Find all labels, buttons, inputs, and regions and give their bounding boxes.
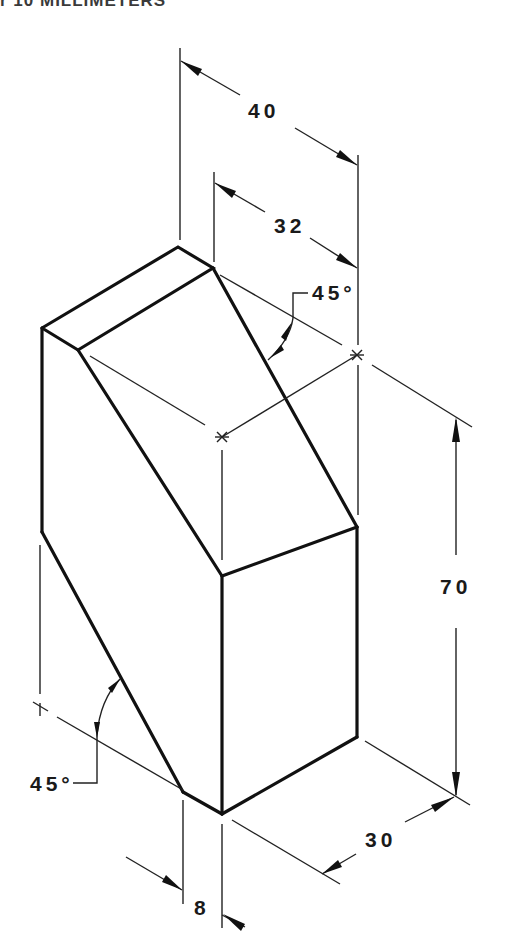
dimension-70: 70 [440, 417, 471, 797]
object-outline [42, 247, 357, 814]
dimension-angle-bottom: 45° [30, 679, 120, 795]
angle-top-label: 45° [312, 281, 356, 304]
isometric-drawing: 40 32 45° 70 30 8 45° [0, 0, 507, 946]
dimension-30-label: 30 [365, 828, 396, 851]
dimension-32-label: 32 [274, 214, 305, 237]
angle-bottom-label: 45° [30, 772, 74, 795]
dimension-40: 40 [181, 61, 357, 165]
dimension-30: 30 [322, 797, 454, 874]
dimension-8: 8 [126, 857, 245, 931]
dimension-70-label: 70 [440, 575, 471, 598]
dimension-angle-top: 45° [268, 281, 356, 360]
dimension-8-label: 8 [194, 896, 210, 919]
dimension-32: 32 [215, 183, 357, 268]
dimension-40-label: 40 [248, 99, 279, 122]
